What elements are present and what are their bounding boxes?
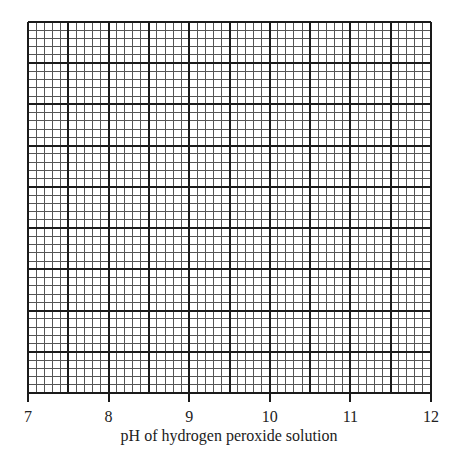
x-tick-label: 10 [262, 408, 278, 426]
x-tick-label: 8 [105, 408, 113, 426]
x-axis-label: pH of hydrogen peroxide solution [121, 427, 338, 445]
graph-paper-grid [0, 0, 462, 471]
x-tick-label: 7 [24, 408, 32, 426]
x-tick-label: 9 [185, 408, 193, 426]
x-tick-label: 11 [343, 408, 358, 426]
x-tick-label: 12 [423, 408, 439, 426]
